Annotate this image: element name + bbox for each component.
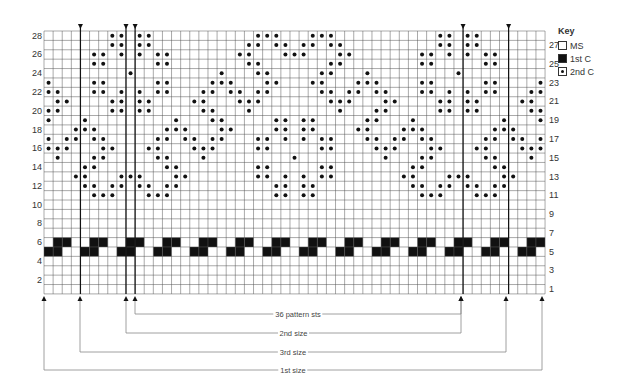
second-contrast-dot [329,71,333,75]
second-contrast-dot [502,165,506,169]
second-contrast-dot [83,128,87,132]
contrast-stitch [418,238,427,247]
second-contrast-dot [411,184,415,188]
second-contrast-dot [92,81,96,85]
row-number-right: 3 [549,265,554,275]
second-contrast-dot [92,62,96,66]
second-contrast-dot [311,128,315,132]
second-contrast-dot [283,128,287,132]
second-contrast-dot [211,146,215,150]
row-number-right: 1 [549,284,554,294]
second-contrast-dot [447,52,451,56]
second-contrast-dot [484,90,488,94]
second-contrast-dot [283,184,287,188]
second-contrast-dot [265,146,269,150]
second-contrast-dot [356,81,360,85]
contrast-stitch [80,247,89,256]
second-contrast-dot [156,81,160,85]
second-contrast-dot [529,146,533,150]
second-contrast-dot [92,90,96,94]
contrast-stitch [44,247,53,256]
second-contrast-dot [320,175,324,179]
second-contrast-dot [101,193,105,197]
second-contrast-dot [347,90,351,94]
second-contrast-dot [247,109,251,113]
second-contrast-dot [156,156,160,160]
second-contrast-dot [238,90,242,94]
second-contrast-dot [211,118,215,122]
second-contrast-dot [384,156,388,160]
row-number-right: 17 [549,134,559,144]
second-contrast-dot [283,52,287,56]
second-contrast-dot [138,90,142,94]
second-contrast-dot [201,146,205,150]
second-contrast-dot [429,62,433,66]
second-contrast-dot [484,81,488,85]
second-contrast-dot [247,99,251,103]
second-contrast-dot [138,34,142,38]
second-contrast-dot [92,156,96,160]
contrast-stitch [381,247,390,256]
second-contrast-dot [493,62,497,66]
contrast-stitch [90,238,99,247]
second-contrast-dot [402,175,406,179]
contrast-stitch [345,247,354,256]
second-contrast-dot [283,43,287,47]
contrast-stitch [53,238,62,247]
second-contrast-dot [129,175,133,179]
second-contrast-dot [138,175,142,179]
second-contrast-dot [220,81,224,85]
second-contrast-dot [384,99,388,103]
second-contrast-dot [338,109,342,113]
second-contrast-dot [502,128,506,132]
contrast-stitch [172,238,181,247]
second-contrast-dot [466,175,470,179]
second-contrast-dot [511,128,515,132]
second-contrast-dot [83,165,87,169]
second-contrast-dot [466,109,470,113]
up-arrow-icon [459,296,464,301]
knitting-chart [0,0,622,385]
second-contrast-dot [274,184,278,188]
key-title: Key [558,26,594,36]
second-contrast-dot [420,193,424,197]
size-bracket-label: 1st size [278,366,307,375]
second-contrast-dot [201,156,205,160]
second-contrast-dot [238,52,242,56]
second-contrast-dot [138,184,142,188]
second-contrast-dot [438,99,442,103]
second-contrast-dot [329,137,333,141]
second-contrast-dot [311,118,315,122]
second-contrast-dot [110,193,114,197]
contrast-stitch [527,247,536,256]
second-contrast-dot [138,52,142,56]
second-contrast-dot [393,137,397,141]
second-contrast-dot [375,137,379,141]
second-contrast-dot [484,137,488,141]
second-contrast-dot [256,165,260,169]
second-contrast-dot [329,43,333,47]
key-legend: Key MS 1st C 2nd C [558,26,594,78]
key-label: 1st C [570,54,591,64]
second-contrast-dot [538,118,542,122]
second-contrast-dot [247,52,251,56]
key-label: 2nd C [570,67,594,77]
second-contrast-dot [493,137,497,141]
second-contrast-dot [466,90,470,94]
key-item-2nd-c: 2nd C [558,65,594,78]
down-arrow-icon [78,24,83,29]
second-contrast-dot [329,99,333,103]
row-number-left: 16 [28,143,42,153]
second-contrast-dot [311,43,315,47]
second-contrast-dot [283,137,287,141]
row-number-left: 18 [28,125,42,135]
second-contrast-dot [520,137,524,141]
second-contrast-dot [329,165,333,169]
second-contrast-dot [420,156,424,160]
second-contrast-dot [511,175,515,179]
second-contrast-dot [329,175,333,179]
second-contrast-dot [92,137,96,141]
second-contrast-dot [338,99,342,103]
second-contrast-dot [475,146,479,150]
contrast-stitch [90,247,99,256]
